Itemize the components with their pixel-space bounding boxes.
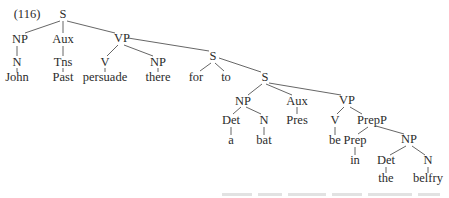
terminal-word-w_the: the [378,171,394,185]
node-np4: NP [401,132,417,146]
terminal-word-w_to: to [221,70,231,84]
node-n3: N [423,153,432,167]
terminal-word-w_persuade: persuade [83,70,128,84]
example-number: (116) [14,7,41,21]
tree-branches [17,21,428,173]
node-prep: Prep [344,133,367,147]
terminal-word-w_for: for [189,70,204,84]
node-s2: S [210,49,217,63]
node-v2: V [330,113,339,127]
terminal-word-w_pres: Pres [286,113,308,127]
branch-vp1-np2 [124,45,153,56]
node-det2: Det [377,153,396,167]
terminal-word-w_be: be [329,133,341,147]
syntax-tree-diagram: (116) SNPAuxVPNTnsVNPSJohnPastpersuadeth… [0,0,449,198]
node-s3: S [262,70,269,84]
node-n2: N [259,113,268,127]
node-aux1: Aux [52,32,74,46]
node-np3: NP [235,94,251,108]
branch-prepp-np4 [376,126,404,134]
terminal-word-w_bat: bat [256,133,272,147]
terminal-word-w_past: Past [53,70,74,84]
terminal-word-w_in: in [350,153,360,167]
terminal-word-w_john: John [5,70,29,84]
node-vp1: VP [114,31,130,45]
branch-vp1-s2 [128,38,209,51]
terminal-word-w_there: there [146,70,171,84]
clipped-caption-line [0,193,449,198]
branch-s1-vp1 [67,21,115,33]
node-np2: NP [150,55,166,69]
node-tns1: Tns [54,55,73,69]
tree-nodes: (116) SNPAuxVPNTnsVNPSJohnPastpersuadeth… [5,7,443,185]
node-vp2: VP [339,93,355,107]
terminal-word-w_belfry: belfry [413,171,444,185]
node-n1: N [12,55,21,69]
node-aux2: Aux [286,94,308,108]
node-np1: NP [12,32,28,46]
node-v1: V [100,55,109,69]
terminal-word-w_a: a [228,133,234,147]
node-prepp: PrepP [357,113,387,127]
node-det1: Det [222,113,241,127]
tree-canvas: (116) SNPAuxVPNTnsVNPSJohnPastpersuadeth… [0,0,449,198]
node-s1: S [60,7,67,21]
